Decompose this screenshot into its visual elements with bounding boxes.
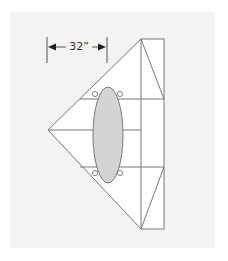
- arrow-left-icon: [48, 44, 56, 51]
- chair-top-right: [117, 91, 122, 96]
- chair-top-left: [92, 91, 97, 96]
- oval-table: [93, 87, 123, 183]
- floor-plan-diagram: [0, 0, 228, 261]
- chair-bottom-left: [92, 170, 97, 175]
- chair-bottom-right: [117, 170, 122, 175]
- arrow-right-icon: [98, 44, 106, 51]
- dimension-label: 32”: [66, 40, 92, 53]
